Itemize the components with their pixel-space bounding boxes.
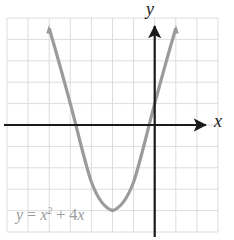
equation-annotation: y = x2 + 4x — [16, 206, 84, 223]
equation-equals: = — [23, 206, 40, 223]
y-axis-label: y — [146, 0, 154, 18]
graph-figure: y x y = x2 + 4x — [0, 0, 234, 240]
coordinate-plane — [0, 0, 234, 240]
x-axis-label: x — [214, 112, 222, 130]
equation-variable-linear: x — [77, 206, 84, 223]
equation-plus: + — [52, 206, 69, 223]
